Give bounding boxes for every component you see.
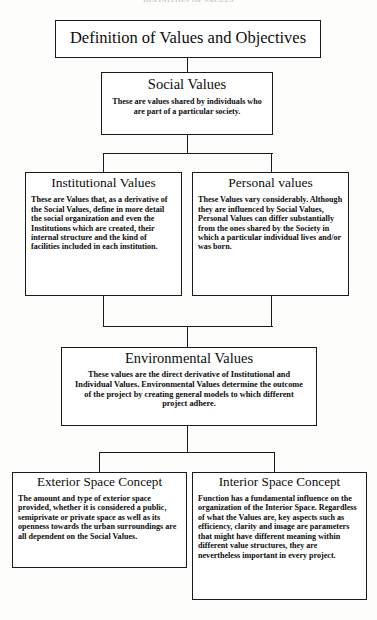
connector-merge-to-environmental bbox=[187, 326, 188, 347]
node-personal-values[interactable]: Personal values These Values vary consid… bbox=[192, 172, 349, 296]
connector-institutional-down bbox=[103, 296, 104, 327]
node-title: Exterior Space Concept bbox=[18, 475, 181, 490]
connector-social-stem bbox=[187, 135, 188, 154]
node-body: These are Values that, as a derivative o… bbox=[31, 195, 176, 252]
node-exterior-space-concept[interactable]: Exterior Space Concept The amount and ty… bbox=[12, 472, 187, 568]
connector-environmental-branch-bar bbox=[99, 452, 275, 453]
node-title: Interior Space Concept bbox=[198, 475, 361, 490]
node-body: Function has a fundamental influence on … bbox=[198, 494, 361, 560]
connector-social-branch-bar bbox=[103, 153, 273, 154]
node-title: Personal values bbox=[198, 175, 343, 190]
connector-branch-to-personal bbox=[271, 153, 272, 172]
node-institutional-values[interactable]: Institutional Values These are Values th… bbox=[25, 172, 182, 296]
node-social-values[interactable]: Social Values These are values shared by… bbox=[101, 72, 273, 135]
node-title: Institutional Values bbox=[31, 175, 176, 190]
page-running-head: DEFINITION OF VALUES bbox=[0, 0, 377, 3]
connector-environmental-stem bbox=[187, 426, 188, 453]
node-title: Social Values bbox=[107, 76, 267, 92]
node-body: These values are the direct derivative o… bbox=[67, 370, 311, 409]
connector-branch-to-exterior bbox=[99, 452, 100, 472]
node-body: These Values vary considerably. Although… bbox=[198, 195, 343, 252]
node-body: These are values shared by individuals w… bbox=[107, 97, 267, 116]
node-interior-space-concept[interactable]: Interior Space Concept Function has a fu… bbox=[192, 472, 367, 600]
connector-branch-to-interior bbox=[274, 452, 275, 472]
node-body: The amount and type of exterior space pr… bbox=[18, 494, 181, 541]
node-definition-of-values-and-objectives[interactable]: Definition of Values and Objectives bbox=[55, 20, 321, 58]
diagram-page: DEFINITION OF VALUES Definition of Value… bbox=[0, 0, 377, 620]
connector-branch-to-institutional bbox=[103, 153, 104, 172]
node-title: Definition of Values and Objectives bbox=[70, 29, 306, 47]
node-title: Environmental Values bbox=[67, 350, 311, 366]
connector-root-to-social bbox=[187, 58, 188, 72]
connector-personal-down bbox=[271, 296, 272, 327]
node-environmental-values[interactable]: Environmental Values These values are th… bbox=[61, 347, 317, 426]
